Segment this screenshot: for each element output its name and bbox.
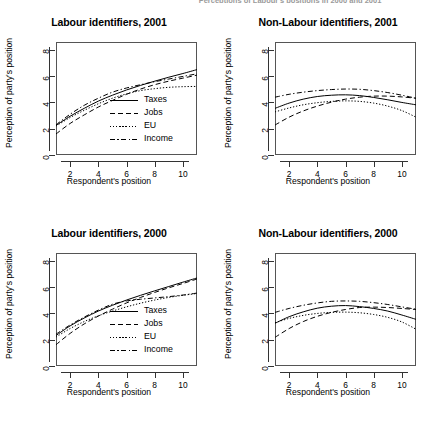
x-axis-tick bbox=[155, 161, 156, 167]
x-axis-line bbox=[61, 161, 189, 162]
y-axis-tick-label: 6 bbox=[41, 287, 51, 292]
y-axis-tick: 2 bbox=[49, 129, 55, 130]
x-axis-tick bbox=[70, 372, 71, 378]
panel-title: Non-Labour identifiers, 2000 bbox=[219, 227, 437, 239]
legend-key-dotted bbox=[110, 126, 138, 127]
y-axis-line bbox=[268, 258, 269, 362]
x-axis-label: Respondent's position bbox=[0, 176, 218, 186]
y-axis-tick: 6 bbox=[49, 287, 55, 288]
y-axis-label: Perception of party's position bbox=[223, 33, 233, 153]
y-axis-tick: 4 bbox=[49, 102, 55, 103]
panel-title: Labour identifiers, 2001 bbox=[0, 16, 218, 28]
y-axis-tick-label: 8 bbox=[41, 49, 51, 54]
legend-label: Taxes bbox=[144, 305, 167, 315]
y-axis-tick-label: 6 bbox=[260, 76, 270, 81]
x-axis-tick bbox=[317, 372, 318, 378]
legend-label: Income bbox=[144, 133, 173, 143]
y-axis-tick: 8 bbox=[268, 261, 274, 262]
y-axis-label: Perception of party's position bbox=[223, 244, 233, 364]
y-axis-tick-label: 6 bbox=[260, 287, 270, 292]
y-axis-tick: 8 bbox=[49, 261, 55, 262]
x-axis-label: Respondent's position bbox=[219, 176, 437, 186]
x-axis-tick bbox=[402, 161, 403, 167]
panel-non-labour-2001: Non-Labour identifiers, 2001Perception o… bbox=[219, 4, 437, 215]
x-axis-line bbox=[61, 372, 189, 373]
legend-label: Jobs bbox=[144, 107, 163, 117]
panel-non-labour-2000: Non-Labour identifiers, 2000Perception o… bbox=[219, 215, 437, 423]
legend-label: Income bbox=[144, 344, 173, 354]
x-axis-tick bbox=[374, 372, 375, 378]
y-axis-tick: 0 bbox=[268, 155, 274, 156]
y-axis-label: Perception of party's position bbox=[4, 33, 14, 153]
y-axis-tick: 8 bbox=[49, 50, 55, 51]
y-axis-tick-label: 2 bbox=[41, 339, 51, 344]
legend-key-dotted bbox=[110, 337, 138, 338]
x-axis-tick bbox=[374, 161, 375, 167]
series-line-taxes bbox=[56, 278, 197, 336]
y-axis-tick-label: 0 bbox=[41, 155, 51, 160]
x-axis-label: Respondent's position bbox=[0, 387, 218, 397]
panel-labour-2000: Labour identifiers, 2000Perception of pa… bbox=[0, 215, 218, 423]
series-line-income bbox=[275, 301, 416, 312]
x-axis-tick bbox=[346, 161, 347, 167]
y-axis-tick: 0 bbox=[49, 366, 55, 367]
y-axis-tick-label: 0 bbox=[41, 366, 51, 371]
series-line-income bbox=[275, 89, 416, 98]
legend-label: Taxes bbox=[144, 94, 167, 104]
y-axis-tick-label: 4 bbox=[41, 102, 51, 107]
x-axis-tick bbox=[183, 372, 184, 378]
x-axis-tick bbox=[98, 372, 99, 378]
y-axis-label: Perception of party's position bbox=[4, 244, 14, 364]
x-axis-tick bbox=[155, 372, 156, 378]
y-axis-tick-label: 4 bbox=[260, 102, 270, 107]
legend-key-dashed bbox=[110, 113, 138, 114]
panel-title: Labour identifiers, 2000 bbox=[0, 227, 218, 239]
series-line-taxes bbox=[275, 306, 416, 324]
y-axis-tick: 4 bbox=[268, 102, 274, 103]
y-axis-tick: 6 bbox=[49, 76, 55, 77]
legend-label: EU bbox=[144, 120, 156, 130]
y-axis-tick-label: 2 bbox=[260, 339, 270, 344]
legend-key-solid bbox=[110, 311, 138, 312]
x-axis-label: Respondent's position bbox=[219, 387, 437, 397]
figure-canvas: Perceptions of Labour's positions in 200… bbox=[0, 0, 437, 423]
legend-label: Jobs bbox=[144, 318, 163, 328]
x-axis-tick bbox=[98, 161, 99, 167]
y-axis-line bbox=[268, 47, 269, 151]
x-axis-line bbox=[280, 372, 408, 373]
y-axis-tick-label: 2 bbox=[41, 128, 51, 133]
legend-key-dashed bbox=[110, 324, 138, 325]
y-axis-tick: 2 bbox=[49, 340, 55, 341]
y-axis-line bbox=[49, 47, 50, 151]
x-axis-tick bbox=[183, 161, 184, 167]
y-axis-tick-label: 4 bbox=[260, 313, 270, 318]
x-axis-tick bbox=[127, 372, 128, 378]
y-axis-tick: 4 bbox=[49, 313, 55, 314]
series-plot bbox=[275, 253, 416, 366]
panel-labour-2001: Labour identifiers, 2001Perception of pa… bbox=[0, 4, 218, 215]
y-axis-tick: 6 bbox=[268, 76, 274, 77]
y-axis-line bbox=[49, 258, 50, 362]
x-axis-tick bbox=[127, 161, 128, 167]
x-axis-tick bbox=[289, 372, 290, 378]
x-axis-tick bbox=[317, 161, 318, 167]
x-axis-tick bbox=[402, 372, 403, 378]
x-axis-tick bbox=[70, 161, 71, 167]
y-axis-tick-label: 8 bbox=[260, 260, 270, 265]
legend-key-dashdot bbox=[110, 350, 138, 351]
figure-header-cutoff: Perceptions of Labour's positions in 200… bbox=[150, 0, 430, 3]
y-axis-tick: 0 bbox=[268, 366, 274, 367]
series-line-eu bbox=[56, 86, 197, 126]
y-axis-tick-label: 0 bbox=[260, 155, 270, 160]
y-axis-tick: 2 bbox=[268, 129, 274, 130]
x-axis-tick bbox=[289, 161, 290, 167]
y-axis-tick-label: 8 bbox=[41, 260, 51, 265]
y-axis-tick: 6 bbox=[268, 287, 274, 288]
series-line-eu bbox=[275, 312, 416, 329]
series-plot bbox=[275, 42, 416, 155]
x-axis-line bbox=[280, 161, 408, 162]
x-axis-tick bbox=[346, 372, 347, 378]
y-axis-tick: 4 bbox=[268, 313, 274, 314]
y-axis-tick: 0 bbox=[49, 155, 55, 156]
y-axis-tick-label: 8 bbox=[260, 49, 270, 54]
